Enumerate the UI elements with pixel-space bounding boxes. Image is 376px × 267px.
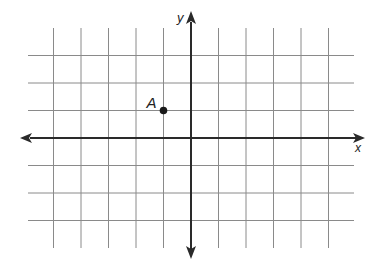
point-a (160, 107, 168, 115)
x-axis (20, 133, 365, 143)
x-axis-label: x (354, 141, 362, 155)
y-axis (186, 11, 196, 259)
plotted-points: A (146, 94, 168, 115)
point-label: A (146, 94, 157, 111)
y-axis-label: y (176, 10, 185, 25)
coordinate-plane: y x A (0, 0, 376, 267)
